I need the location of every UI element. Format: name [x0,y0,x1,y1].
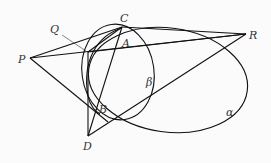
label-q: Q [50,23,59,36]
geometry-figure: P Q C A R β B α D [0,0,271,163]
pointer-q [62,35,86,51]
line-p-d [30,58,108,122]
label-c: C [120,12,129,25]
label-p: P [17,53,26,66]
label-a: A [121,37,130,50]
label-alpha: α [226,106,234,119]
label-b: B [98,103,107,116]
label-beta: β [145,76,152,89]
line-c-r [122,27,246,34]
arc-left [87,28,122,114]
label-r: R [248,29,257,42]
label-d: D [82,140,92,153]
diagram-canvas: P Q C A R β B α D [0,0,271,163]
